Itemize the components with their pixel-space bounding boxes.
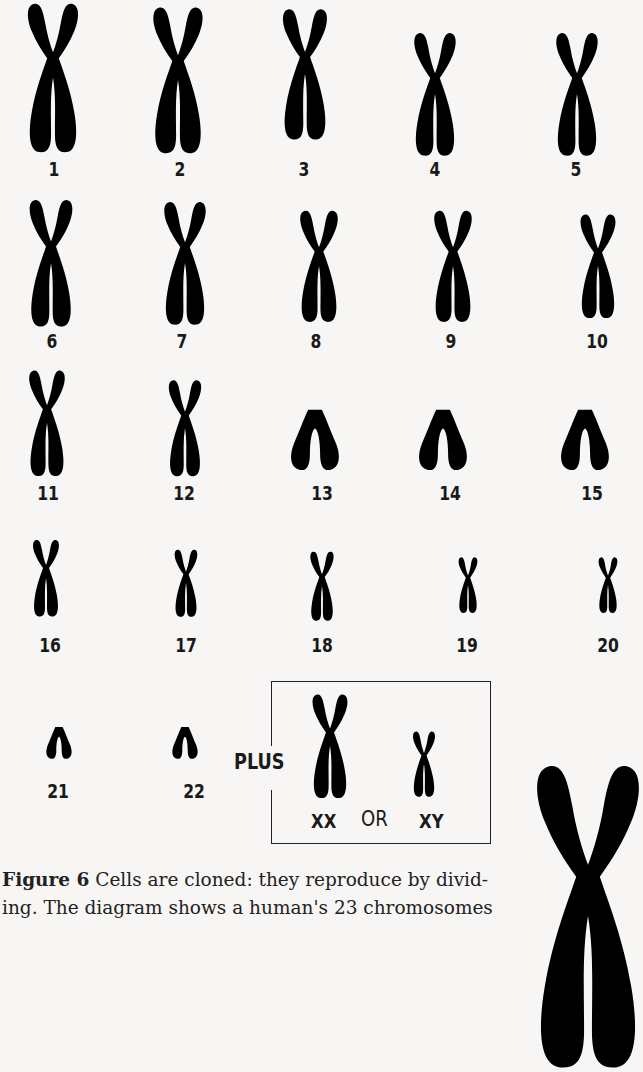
chromosome-label: 8 [291,330,340,352]
chromosome-label: 15 [567,482,616,504]
chromosome-20 [576,556,640,614]
chromosome-2 [147,4,209,156]
chromosome-19 [436,556,500,614]
chromosome-12 [154,378,216,478]
large-x-chromosome [529,726,643,1072]
plus-label: PLUS [234,749,284,774]
chromosome-14 [412,408,474,476]
chromosome-label: 1 [29,158,78,180]
chromosome-label: 22 [169,780,218,802]
chromosome-9 [422,208,484,324]
xy-label: XY [419,809,444,833]
chromosome-label: 2 [155,158,204,180]
chromosome-label: 4 [410,158,459,180]
xx-label: XX [311,809,336,833]
chromosome-label: 7 [157,330,206,352]
chromosome-5 [546,30,608,158]
chromosome-10 [568,212,628,320]
caption-line-2: ing. The diagram shows a human's 23 chro… [2,894,502,922]
chromosome-1 [22,0,84,155]
chromosome-label: 5 [551,158,600,180]
chromosome-18 [290,550,354,622]
chromosome-label: 3 [279,158,328,180]
chromosome-4 [404,30,466,158]
chromosome-label: 13 [297,482,346,504]
or-label: OR [361,806,388,831]
chromosome-label: 20 [583,634,632,656]
chromosome-label: 6 [27,330,76,352]
chromosome-label: 9 [426,330,475,352]
chromosome-22 [154,726,216,762]
chromosome-7 [154,199,216,327]
chromosome-11 [16,368,78,478]
chromosome-8 [288,208,350,324]
caption-line-1: Figure 6 Cells are cloned: they reproduc… [2,866,502,894]
chromosome-label: 17 [161,634,210,656]
chromosome-3 [274,6,336,142]
x-chromosome [298,692,362,800]
chromosome-label: 10 [572,330,621,352]
chromosome-16 [14,538,78,618]
chromosome-6 [20,197,82,329]
figure-number: Figure 6 [2,869,89,890]
chromosome-label: 11 [23,482,72,504]
figure-caption: Figure 6 Cells are cloned: they reproduc… [2,866,502,922]
y-chromosome [392,730,456,798]
chromosome-13 [284,408,346,476]
chromosome-15 [554,408,616,476]
chromosome-21 [28,726,90,762]
chromosome-label: 18 [297,634,346,656]
chromosome-label: 21 [33,780,82,802]
chromosome-label: 12 [159,482,208,504]
chromosome-label: 14 [425,482,474,504]
chromosome-label: 19 [442,634,491,656]
chromosome-17 [154,548,218,618]
chromosome-label: 16 [25,634,74,656]
